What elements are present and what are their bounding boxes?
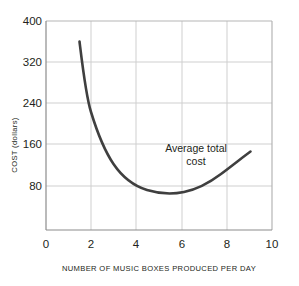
annotation-line-2: cost (186, 155, 205, 167)
x-tick-label-8: 8 (224, 238, 230, 250)
x-tick-label-2: 2 (88, 238, 94, 250)
annotation-line-1: Average total (165, 142, 227, 154)
x-tick-label-4: 4 (133, 238, 140, 250)
y-axis-title: COST (dollars) (10, 117, 19, 173)
x-tick-label-6: 6 (179, 238, 185, 250)
x-tick-label-10: 10 (266, 238, 279, 250)
y-tick-label-400: 400 (23, 15, 42, 27)
x-tick-label-0: 0 (43, 238, 49, 250)
y-tick-label-80: 80 (29, 180, 42, 192)
y-tick-label-240: 240 (23, 97, 42, 109)
x-axis-title: NUMBER OF MUSIC BOXES PRODUCED PER DAY (62, 264, 256, 273)
y-tick-label-160: 160 (23, 138, 42, 150)
average-total-cost-chart: 400 320 240 160 80 0 2 4 6 8 10 NUMBER O… (0, 0, 299, 286)
y-tick-label-320: 320 (23, 56, 42, 68)
chart-canvas: 400 320 240 160 80 0 2 4 6 8 10 NUMBER O… (0, 0, 299, 286)
